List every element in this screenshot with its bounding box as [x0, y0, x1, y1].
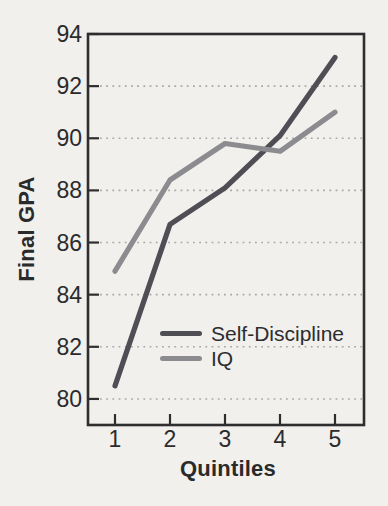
- legend-swatch-self-discipline-line: [160, 331, 202, 336]
- y-tick-label-84: 84: [56, 282, 82, 308]
- x-tick-label-4: 4: [274, 426, 287, 452]
- legend-label-iq: IQ: [211, 348, 233, 369]
- y-tick-label-82: 82: [56, 334, 82, 360]
- y-tick-label-86: 86: [56, 230, 82, 256]
- y-axis-title: Final GPA: [14, 176, 40, 281]
- x-axis-title: Quintiles: [180, 456, 276, 482]
- legend-swatch-iq-line: [160, 356, 202, 361]
- x-tick-label-1: 1: [109, 426, 122, 452]
- y-tick-label-88: 88: [56, 177, 82, 203]
- y-tick-label-80: 80: [56, 386, 82, 412]
- y-tick-label-94: 94: [56, 21, 82, 47]
- x-tick-label-5: 5: [329, 426, 342, 452]
- legend-label-self-discipline: Self-Discipline: [211, 323, 344, 344]
- x-tick-label-3: 3: [219, 426, 232, 452]
- legend: Self-Discipline IQ: [160, 321, 344, 371]
- legend-item-iq: IQ: [160, 346, 344, 371]
- x-tick-label-2: 2: [164, 426, 177, 452]
- legend-item-self-discipline: Self-Discipline: [160, 321, 344, 346]
- plot-area: 808284868890929412345: [0, 0, 388, 506]
- y-tick-label-92: 92: [56, 73, 82, 99]
- series-line-iq: [115, 112, 335, 271]
- chart-figure: 808284868890929412345 Final GPA Self-Dis…: [0, 0, 388, 506]
- y-tick-label-90: 90: [56, 125, 82, 151]
